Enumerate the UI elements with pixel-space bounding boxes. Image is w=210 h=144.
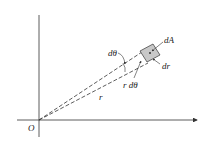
- label-r: r: [99, 92, 103, 102]
- label-dA: dA: [164, 35, 175, 45]
- label-dr: dr: [162, 61, 171, 71]
- label-origin: O: [28, 123, 35, 133]
- polar-area-element-diagram: O dA dr dθ r r dθ: [0, 0, 210, 144]
- label-rdtheta: r dθ: [123, 80, 138, 90]
- dr-pointer: [153, 59, 160, 64]
- label-dtheta: dθ: [108, 48, 118, 58]
- ray-lower: [39, 63, 148, 120]
- dtheta-arc: [123, 63, 125, 72]
